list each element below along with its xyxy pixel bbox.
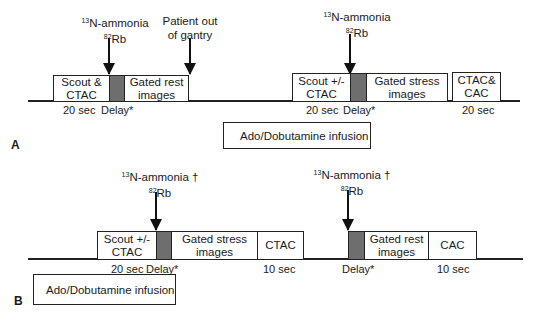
patient-out-arrow-icon: [189, 38, 191, 74]
delay-label: Delay*: [101, 104, 133, 116]
tracer-name: N-ammonia: [89, 17, 148, 29]
gated-rest-box: Gated rest images: [124, 75, 189, 102]
tracer-name: N-ammonia: [331, 11, 390, 23]
panel-label-b: B: [14, 294, 23, 308]
infusion-box-a: Ado/Dobutamine infusion: [223, 122, 371, 149]
tracer-name: Rb: [157, 187, 172, 199]
tracer-annotation-b2: 13N-ammonia † 82Rb: [302, 166, 402, 198]
tracer-annotation-b1: 13N-ammonia † 82Rb: [110, 168, 210, 200]
delay-block: [156, 231, 172, 260]
tracer-name: N-ammonia †: [321, 169, 390, 181]
scout-ctac-box: Scout +/- CTAC: [292, 73, 351, 102]
delay-block: [348, 231, 365, 260]
isotope-number: 13: [323, 11, 331, 18]
injection-arrow-icon: [349, 34, 351, 74]
panel-label-a: A: [11, 138, 20, 152]
injection-arrow-icon: [108, 38, 110, 74]
duration-label: 10 sec: [437, 263, 469, 275]
delay-block: [109, 75, 125, 102]
delay-block: [350, 73, 367, 102]
gated-stress-box: Gated stress images: [171, 231, 258, 260]
isotope-number: 13: [81, 17, 89, 24]
patient-out-line1: Patient out: [160, 14, 220, 28]
cac-box: CAC: [428, 231, 477, 260]
gated-stress-box: Gated stress images: [366, 73, 448, 102]
duration-label: 10 sec: [263, 263, 295, 275]
duration-label: 20 sec: [63, 104, 95, 116]
infusion-box-b: Ado/Dobutamine infusion: [33, 274, 176, 305]
ctac-box: CTAC: [257, 231, 304, 260]
tracer-name: Rb: [112, 33, 127, 45]
isotope-number: 82: [346, 27, 354, 34]
ctac-cac-box: CTAC& CAC: [452, 72, 501, 102]
tracer-name: Rb: [349, 185, 364, 197]
infusion-label: Ado/Dobutamine infusion: [46, 284, 175, 296]
tracer-annotation-a2: 13N-ammonia 82Rb: [307, 8, 407, 40]
delay-label: Delay*: [343, 104, 375, 116]
infusion-label: Ado/Dobutamine infusion: [240, 130, 369, 142]
injection-arrow-icon: [155, 192, 157, 230]
delay-label: Delay*: [342, 263, 374, 275]
duration-label: 20 sec: [306, 104, 338, 116]
scout-ctac-box: Scout +/- CTAC: [97, 231, 157, 260]
tracer-name: Rb: [354, 27, 369, 39]
duration-label: 20 sec: [462, 104, 494, 116]
scout-ctac-box: Scout & CTAC: [53, 75, 110, 102]
injection-arrow-icon: [347, 190, 349, 230]
tracer-annotation-a1: 13N-ammonia 82Rb: [70, 14, 160, 46]
gated-rest-box: Gated rest images: [364, 231, 429, 260]
tracer-name: N-ammonia †: [129, 171, 198, 183]
